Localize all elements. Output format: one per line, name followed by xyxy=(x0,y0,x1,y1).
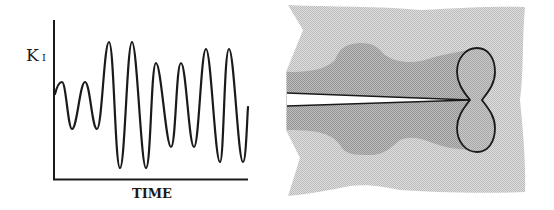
ki-time-plot: K I TIME xyxy=(0,0,270,210)
ki-curve xyxy=(55,42,248,168)
y-axis-subscript: I xyxy=(42,52,46,63)
crack-diagram-svg xyxy=(270,0,554,210)
x-axis-label: TIME xyxy=(132,186,172,201)
ki-time-plot-svg: K I TIME xyxy=(0,0,270,210)
crack-plastic-zone-diagram xyxy=(270,0,554,210)
y-axis-label: K xyxy=(26,45,39,65)
